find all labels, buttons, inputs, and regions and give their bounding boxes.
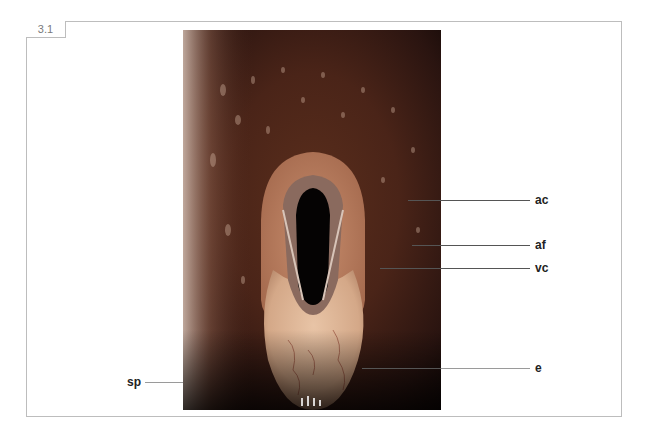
leader-af	[412, 245, 530, 246]
endoscopic-photo	[183, 30, 441, 410]
leader-e	[362, 368, 441, 369]
leader-sp	[145, 382, 183, 383]
label-sp: sp	[127, 376, 141, 388]
leader-vc	[380, 268, 530, 269]
label-e: e	[535, 362, 542, 374]
label-ac: ac	[535, 194, 548, 206]
label-af: af	[535, 239, 546, 251]
leader-e-outer	[441, 368, 530, 369]
leader-ac	[408, 200, 530, 201]
label-vc: vc	[535, 262, 548, 274]
figure-number: 3.1	[26, 21, 66, 38]
